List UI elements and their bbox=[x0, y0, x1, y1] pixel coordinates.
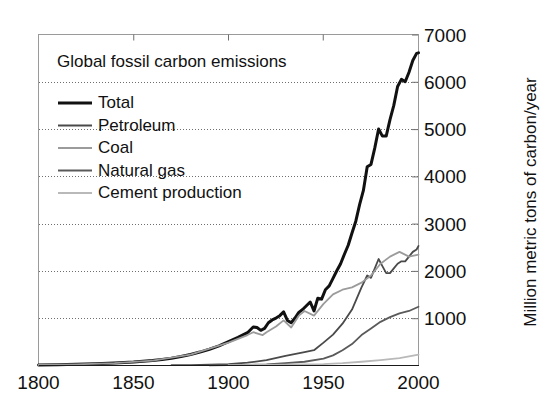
y-axis-title: Million metric tons of carbon/year bbox=[521, 77, 540, 327]
x-tick-label: 1800 bbox=[17, 372, 59, 393]
chart-title: Global fossil carbon emissions bbox=[57, 52, 287, 71]
y-tick-label: 7000 bbox=[424, 25, 466, 46]
x-tick-label: 1950 bbox=[302, 372, 344, 393]
legend-label-natural-gas: Natural gas bbox=[98, 161, 185, 180]
y-tick-label: 3000 bbox=[424, 214, 466, 235]
y-tick-label: 4000 bbox=[424, 166, 466, 187]
y-tick-label: 1000 bbox=[424, 308, 466, 329]
legend-label-petroleum: Petroleum bbox=[98, 116, 175, 135]
legend-label-total: Total bbox=[98, 93, 134, 112]
y-tick-label: 5000 bbox=[424, 119, 466, 140]
y-tick-label: 2000 bbox=[424, 261, 466, 282]
legend-label-cement-production: Cement production bbox=[98, 183, 242, 202]
legend-label-coal: Coal bbox=[98, 138, 133, 157]
emissions-line-chart: 1000200030004000500060007000 18001850190… bbox=[0, 0, 559, 418]
chart-figure: 1000200030004000500060007000 18001850190… bbox=[0, 0, 559, 418]
y-tick-label: 6000 bbox=[424, 72, 466, 93]
x-tick-label: 2000 bbox=[397, 372, 439, 393]
x-tick-label: 1850 bbox=[112, 372, 154, 393]
x-tick-label: 1900 bbox=[207, 372, 249, 393]
